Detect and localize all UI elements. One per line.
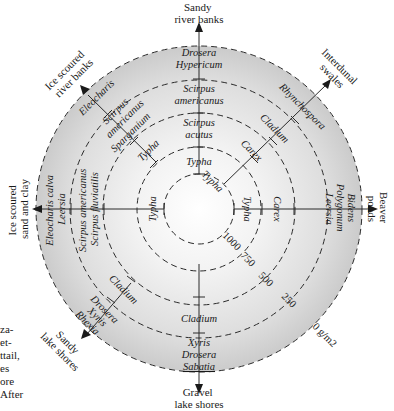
svg-text:et-: et- <box>0 336 12 348</box>
value-0: 0 g/m2 <box>311 321 340 350</box>
svg-text:DroseraHypericum: DroseraHypericum <box>175 47 223 70</box>
svg-text:Typha: Typha <box>147 196 158 221</box>
habitat-e: Beaver ponds <box>366 192 390 226</box>
habitat-sw: Sandy lake shores <box>39 322 91 374</box>
habitat-ne: Interdunal swales <box>311 46 362 97</box>
wetland-zonation-diagram: Sandy river banks Gravel lake shores Bea… <box>0 0 394 411</box>
caption-fragment: za- et- ttail, es ore After <box>0 323 24 400</box>
habitat-n: Sandy river banks <box>174 1 223 25</box>
svg-text:Scirpus americanus Scirp: Scirpus americanus Scirpus fluviatilis <box>77 166 100 252</box>
svg-text:Typha: Typha <box>186 156 211 167</box>
svg-text:za-: za- <box>0 323 14 335</box>
svg-text:Cladium: Cladium <box>181 313 218 324</box>
habitat-w: Ice scoured sand and clay <box>6 179 30 239</box>
habitat-s: Gravel lake shores <box>174 386 223 410</box>
svg-text:Typha: Typha <box>242 196 253 221</box>
svg-text:After: After <box>0 388 24 400</box>
svg-text:ore: ore <box>0 375 14 387</box>
svg-text:Carex: Carex <box>272 196 283 222</box>
svg-text:Scirpusacutus: Scirpusacutus <box>183 117 215 140</box>
svg-text:ttail,: ttail, <box>0 349 20 361</box>
svg-text:es: es <box>0 362 9 374</box>
